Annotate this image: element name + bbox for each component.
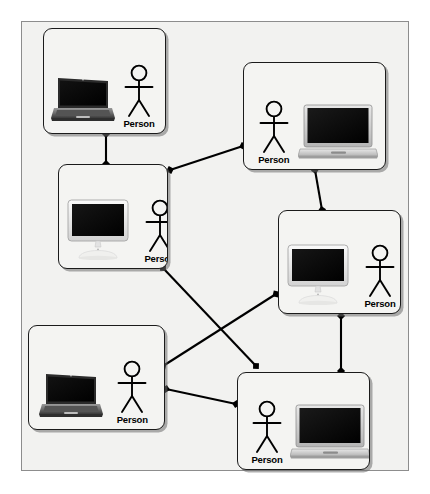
stick-figure-icon: [250, 400, 284, 454]
node-4[interactable]: Person: [278, 210, 401, 314]
actor-label: Person: [251, 455, 282, 465]
node-content: Person: [244, 63, 385, 169]
silver-laptop-icon: [298, 103, 378, 161]
node-6[interactable]: Person: [237, 372, 370, 470]
dark-laptop-icon: [38, 371, 104, 421]
node-3[interactable]: Person: [58, 164, 168, 269]
stick-figure-icon: [122, 64, 156, 118]
desktop-computer-icon: [65, 198, 137, 260]
dark-laptop-icon: [50, 75, 116, 129]
diagram-stage: Person Person: [0, 0, 430, 494]
actor-label: Person: [364, 299, 395, 309]
desktop-computer-icon: [65, 198, 137, 264]
node-content: Person: [59, 165, 167, 268]
actor-label: Person: [258, 155, 289, 165]
actor: Person: [109, 360, 155, 425]
dark-laptop-icon: [38, 371, 104, 425]
actor: Person: [357, 244, 401, 309]
silver-laptop-icon: [290, 403, 370, 465]
stick-figure-icon: [257, 100, 291, 154]
node-1[interactable]: Person: [43, 28, 166, 134]
node-content: Person: [44, 29, 165, 133]
actor: Person: [244, 400, 290, 465]
desktop-computer-icon: [285, 243, 357, 305]
actor-label: Person: [117, 415, 148, 425]
actor-label: Person: [144, 254, 168, 264]
actor: Person: [251, 100, 297, 165]
node-content: Person: [29, 326, 164, 429]
dark-laptop-icon: [50, 75, 116, 125]
stick-figure-icon: [143, 199, 168, 253]
node-2[interactable]: Person: [243, 62, 386, 170]
stick-figure-icon: [363, 244, 397, 298]
silver-laptop-icon: [290, 403, 370, 461]
actor: Person: [116, 64, 162, 129]
node-5[interactable]: Person: [28, 325, 165, 430]
silver-laptop-icon: [298, 103, 378, 165]
desktop-computer-icon: [285, 243, 357, 309]
actor: Person: [137, 199, 168, 264]
actor-label: Person: [123, 119, 154, 129]
stick-figure-icon: [115, 360, 149, 414]
node-content: Person: [238, 373, 369, 469]
node-content: Person: [279, 211, 400, 313]
